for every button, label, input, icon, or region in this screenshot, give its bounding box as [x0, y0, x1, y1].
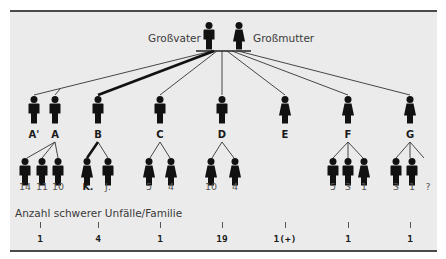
tick	[348, 222, 349, 228]
gen3-label: ?	[425, 181, 430, 192]
gen3-label: 14	[19, 181, 31, 192]
family-count-a: 1	[37, 233, 43, 244]
grandmother-icon	[233, 22, 245, 50]
family-count-g: 1	[407, 233, 413, 244]
gen3-label: 3	[393, 181, 399, 192]
gen2-label-e: E	[282, 129, 289, 140]
tick	[98, 222, 99, 228]
grandmother-label: Großmutter	[253, 32, 314, 44]
grandfather-icon	[204, 22, 215, 50]
gen3-label: J.	[105, 181, 111, 192]
person-a-icon	[50, 96, 61, 124]
tick	[160, 222, 161, 228]
gen2-label-c: C	[156, 129, 163, 140]
gen2-label-a: A	[51, 129, 59, 140]
tick	[410, 222, 411, 228]
person-c-icon	[155, 96, 166, 124]
gen3-label: 1	[361, 181, 367, 192]
tick	[285, 222, 286, 228]
family-count-b: 4	[95, 233, 101, 244]
person-f-icon	[342, 96, 354, 124]
gen3-label: 10	[205, 181, 217, 192]
gen3-label: 5	[146, 181, 152, 192]
grandfather-label: Großvater	[148, 32, 201, 44]
family-count-d: 19	[216, 233, 227, 244]
person-d-icon	[217, 96, 228, 124]
gen2-label-b: B	[94, 129, 102, 140]
accidents-caption: Anzahl schwerer Unfälle/Familie	[15, 207, 182, 219]
person-b-icon	[93, 96, 104, 124]
person-e-icon	[279, 96, 291, 124]
tick	[40, 222, 41, 228]
gen3-label: 4	[232, 181, 238, 192]
person-a-prime-icon	[29, 96, 40, 124]
gen3-label: 10	[52, 181, 64, 192]
tick	[222, 222, 223, 228]
family-count-e: 1(+)	[274, 233, 297, 244]
gen3-label: 11	[36, 181, 48, 192]
gen3-label: 1	[409, 181, 415, 192]
gen2-label-a-prime: A'	[29, 129, 40, 140]
gen2-label-f: F	[345, 129, 352, 140]
family-count-f: 1	[345, 233, 351, 244]
gen3-label: 4	[168, 181, 174, 192]
family-count-c: 1	[157, 233, 163, 244]
gen2-label-d: D	[218, 129, 226, 140]
gen3-label: 3	[345, 181, 351, 192]
gen3-label: K.	[83, 181, 94, 192]
gen2-label-g: G	[406, 129, 414, 140]
person-g-icon	[404, 96, 416, 124]
gen3-label: 5	[330, 181, 336, 192]
